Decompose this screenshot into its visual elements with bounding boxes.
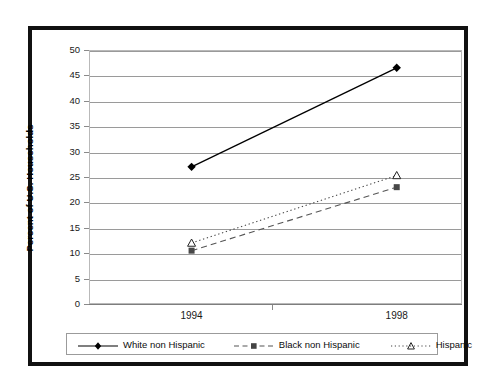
legend-item-hispanic[interactable]: Hispanic [390,334,472,354]
data-point-2-1 [393,171,401,178]
chart-legend: White non Hispanic Black non Hispanic [66,333,438,355]
y-axis-tick-mark [84,279,89,280]
data-point-0-1 [393,64,401,72]
y-axis-tick-label: 20 [54,197,80,207]
y-axis-tick-mark [84,75,89,76]
y-axis-tick-label: 40 [54,96,80,106]
legend-label-black-non-hispanic: Black non Hispanic [279,339,360,350]
y-axis-tick-label: 35 [54,121,80,131]
x-axis-tick-label: 1998 [367,310,427,321]
y-axis-tick-label: 10 [54,248,80,258]
y-axis-tick-label: 5 [54,274,80,284]
series-line-0 [192,68,397,167]
legend-item-black-non-hispanic[interactable]: Black non Hispanic [233,334,360,354]
legend-label-hispanic: Hispanic [436,339,472,350]
chart-canvas: Percent of U.S. Households White non His… [32,30,464,362]
y-axis-tick-label: 50 [54,45,80,55]
data-point-2-0 [188,239,196,246]
y-axis-tick-label: 30 [54,147,80,157]
legend-key-triangle-icon [390,338,432,350]
data-point-0-0 [187,163,195,171]
y-axis-tick-label: 15 [54,223,80,233]
y-axis-tick-mark [84,152,89,153]
series-line-1 [192,187,397,251]
y-axis-tick-mark [84,228,89,229]
y-axis-tick-label: 0 [54,299,80,309]
y-axis-tick-label: 45 [54,70,80,80]
chart-frame: Percent of U.S. Households White non His… [28,26,468,366]
x-axis-tick-label: 1994 [162,310,222,321]
legend-key-square-icon [233,338,275,350]
data-point-1-1 [394,184,400,190]
y-axis-tick-mark [84,177,89,178]
y-axis-tick-mark [84,50,89,51]
y-axis-title: Percent of U.S. Households [24,108,38,268]
data-point-1-0 [189,248,195,254]
y-axis-tick-mark [84,304,89,305]
y-axis-tick-mark [84,253,89,254]
y-axis-tick-mark [84,126,89,127]
legend-key-diamond-icon [77,338,119,350]
x-axis-center-tick [272,305,273,310]
x-axis-line [89,304,462,305]
y-axis-tick-mark [84,202,89,203]
series-plot [89,50,462,304]
series-line-2 [192,176,397,244]
y-axis-tick-label: 25 [54,172,80,182]
legend-item-white-non-hispanic[interactable]: White non Hispanic [77,334,205,354]
legend-label-white-non-hispanic: White non Hispanic [123,339,205,350]
y-axis-tick-mark [84,101,89,102]
